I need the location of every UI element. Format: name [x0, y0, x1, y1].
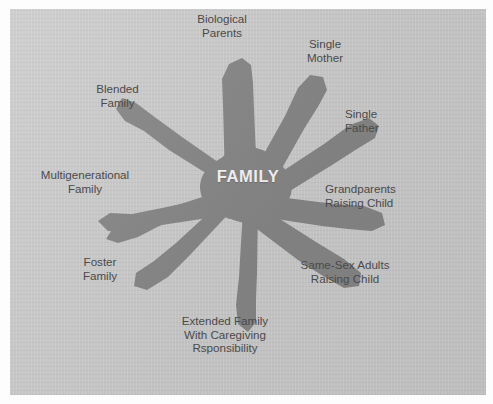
label-line: Single: [270, 37, 380, 51]
label-multigenerational-family: Multigenerational Family: [10, 168, 160, 195]
label-line: Mother: [270, 51, 380, 65]
label-foster-family: Foster Family: [45, 255, 155, 282]
label-line: Family: [60, 96, 175, 110]
label-line: Single: [345, 107, 455, 121]
label-line: Multigenerational: [10, 168, 160, 182]
label-same-sex-adults-raising-child: Same-Sex Adults Raising Child: [270, 258, 420, 285]
label-grandparents-raising-child: Grandparents Raising Child: [325, 182, 465, 209]
label-line: Father: [345, 121, 455, 135]
label-line: Same-Sex Adults: [270, 258, 420, 272]
label-line: Raising Child: [270, 272, 420, 286]
label-line: Blended: [60, 82, 175, 96]
label-line: Grandparents: [325, 182, 465, 196]
label-line: Raising Child: [325, 196, 465, 210]
label-line: Foster: [45, 255, 155, 269]
label-line: Rsponsibility: [145, 341, 305, 355]
label-single-mother: Single Mother: [270, 37, 380, 64]
label-biological-parents: Biological Parents: [162, 12, 282, 39]
label-line: Biological: [162, 12, 282, 26]
label-line: With Caregiving: [145, 328, 305, 342]
label-line: Family: [45, 269, 155, 283]
label-blended-family: Blended Family: [60, 82, 175, 109]
label-extended-family-caregiving: Extended Family With Caregiving Rsponsib…: [145, 314, 305, 355]
label-single-father: Single Father: [345, 107, 455, 134]
page-canvas: FAMILY Biological Parents Single Mother …: [0, 0, 493, 404]
label-line: Parents: [162, 26, 282, 40]
label-line: Family: [10, 182, 160, 196]
label-line: Extended Family: [145, 314, 305, 328]
